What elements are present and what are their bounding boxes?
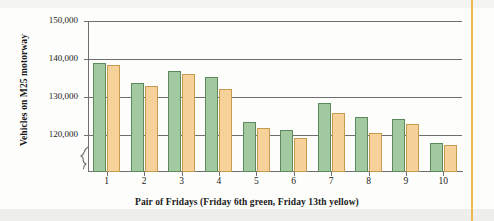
bar-friday-6th <box>280 130 293 172</box>
bar-friday-13th <box>294 138 307 172</box>
x-tick-label: 3 <box>170 176 194 186</box>
x-tick-label: 9 <box>394 176 418 186</box>
bar-friday-13th <box>444 145 457 172</box>
y-tick-label: 120,000 <box>22 129 78 139</box>
bar-friday-6th <box>392 119 405 172</box>
y-tick-mark <box>84 59 89 60</box>
gridline <box>88 21 462 22</box>
bar-friday-6th <box>355 117 368 172</box>
x-tick-label: 6 <box>282 176 306 186</box>
bar-friday-6th <box>318 103 331 172</box>
y-tick-mark <box>84 21 89 22</box>
x-axis-title: Pair of Fridays (Friday 6th green, Frida… <box>0 197 494 207</box>
y-tick-label: 140,000 <box>22 53 78 63</box>
bar-friday-6th <box>243 122 256 172</box>
bar-friday-13th <box>332 113 345 172</box>
bar-friday-13th <box>219 89 232 172</box>
x-tick-label: 8 <box>357 176 381 186</box>
bar-chart: Vehicles on M25 motorway 150,000140,0001… <box>0 0 494 221</box>
bar-friday-6th <box>430 143 443 172</box>
x-tick-label: 2 <box>132 176 156 186</box>
bar-friday-13th <box>406 124 419 172</box>
bar-friday-6th <box>131 83 144 172</box>
y-axis-break-icon <box>77 146 91 170</box>
y-tick-mark <box>84 97 89 98</box>
gridline <box>88 59 462 60</box>
x-tick-label: 7 <box>319 176 343 186</box>
y-tick-label: 150,000 <box>22 15 78 25</box>
bar-friday-13th <box>257 128 270 172</box>
bar-friday-13th <box>182 74 195 172</box>
x-tick-label: 1 <box>95 176 119 186</box>
bar-friday-13th <box>145 86 158 172</box>
x-tick-label: 10 <box>431 176 455 186</box>
bar-friday-13th <box>107 65 120 172</box>
bar-friday-6th <box>93 63 106 172</box>
y-axis-title: Vehicles on M25 motorway <box>19 20 29 160</box>
bar-friday-13th <box>369 133 382 172</box>
bar-friday-6th <box>168 71 181 172</box>
x-tick-label: 4 <box>207 176 231 186</box>
y-tick-mark <box>84 135 89 136</box>
y-tick-label: 130,000 <box>22 91 78 101</box>
x-tick-label: 5 <box>244 176 268 186</box>
scanned-page: Vehicles on M25 motorway 150,000140,0001… <box>0 0 494 221</box>
bar-friday-6th <box>205 77 218 172</box>
